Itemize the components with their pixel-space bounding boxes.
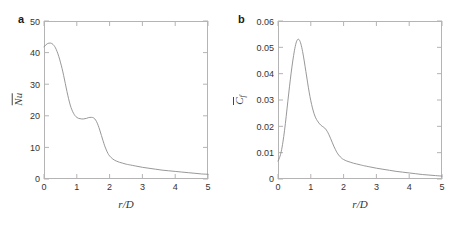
panel-b-yaxis-symbol: C [233, 97, 245, 104]
panel-a-ytick-40: 40 [18, 49, 40, 58]
panel-b-ytick-004: 0.04 [242, 70, 274, 79]
panel-a-xtick-0: 0 [34, 183, 54, 192]
panel-a-xtick-1: 1 [67, 183, 87, 192]
panel-a-xaxis-denominator: D [126, 198, 134, 210]
panel-b-xtick-4: 4 [399, 183, 419, 192]
panel-b-xtick-5: 5 [432, 183, 452, 192]
panel-b-ytick-005: 0.05 [242, 44, 274, 53]
panel-a-yaxis-symbol: Nu [12, 93, 24, 106]
panel-a-xtick-2: 2 [100, 183, 120, 192]
panel-a-xtick-4: 4 [165, 183, 185, 192]
panel-a-xtick-3: 3 [132, 183, 152, 192]
panel-a-curve [44, 43, 208, 174]
panel-b-xtick-3: 3 [366, 183, 386, 192]
panel-a: a [0, 0, 234, 227]
panel-a-xaxis-title: r/D [96, 199, 156, 210]
panel-b-xtick-2: 2 [334, 183, 354, 192]
panel-b: b [234, 0, 468, 227]
panel-b-xtick-0: 0 [268, 183, 288, 192]
figure-container: a [0, 0, 468, 227]
panel-b-xaxis-title: r/D [330, 199, 390, 210]
panel-a-yaxis-title: Nu [12, 79, 25, 119]
panel-b-ytick-001: 0.01 [242, 149, 274, 158]
panel-a-plot-area [44, 21, 208, 179]
panel-b-yaxis-title: Cf [233, 80, 247, 120]
panel-b-ytick-006: 0.06 [242, 18, 274, 27]
panel-b-plot-area [278, 21, 442, 179]
panel-b-ticks [278, 21, 442, 179]
panel-a-xtick-5: 5 [198, 183, 218, 192]
panel-b-xaxis-denominator: D [360, 198, 368, 210]
panel-b-xtick-1: 1 [301, 183, 321, 192]
panel-a-ytick-10: 10 [18, 144, 40, 153]
panel-b-ytick-002: 0.02 [242, 123, 274, 132]
panel-b-curve [278, 39, 442, 176]
panel-a-ytick-50: 50 [18, 18, 40, 27]
panel-b-yaxis-subscript: f [238, 95, 247, 97]
